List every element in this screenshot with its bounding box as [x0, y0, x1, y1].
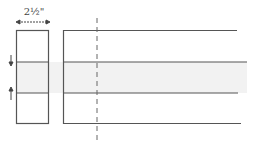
center-shaded-band — [16, 62, 247, 93]
diagram-canvas — [0, 0, 254, 146]
width-dimension-arrow — [16, 20, 50, 24]
fold-arrow-down — [9, 55, 13, 66]
fold-arrow-up — [9, 87, 13, 100]
